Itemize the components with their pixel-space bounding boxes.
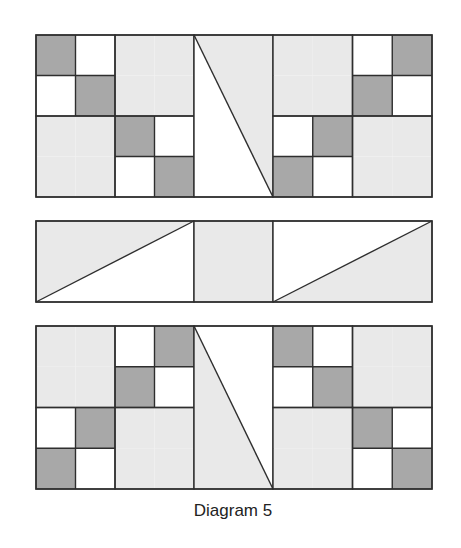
plain-square [194,221,273,302]
patch-cell-light [392,367,432,408]
patch-cell-light [36,116,76,157]
patch-cell-light [76,157,116,198]
patch-cell-white [76,35,116,76]
patch-cell-dark [115,367,155,408]
patch-cell-white [115,157,155,198]
patch-cell-white [36,408,76,449]
patch-cell-dark [36,448,76,489]
patch-cell-dark [76,408,116,449]
patch-cell-light [155,408,195,449]
patch-cell-white [273,367,313,408]
patch-cell-light [115,35,155,76]
patch-cell-white [155,367,195,408]
patch-cell-light [115,448,155,489]
patch-cell-white [313,157,353,198]
patch-cell-light [353,367,393,408]
patch-cell-light [36,367,76,408]
quilt-diagram [0,0,461,548]
patch-cell-light [36,326,76,367]
patch-cell-light [353,326,393,367]
patch-cell-light [313,408,353,449]
patch-cell-light [313,448,353,489]
patch-cell-light [115,76,155,117]
patch-cell-light [273,408,313,449]
patch-cell-light [353,157,393,198]
patch-cell-light [273,35,313,76]
patch-cell-dark [273,157,313,198]
patch-cell-white [115,326,155,367]
patch-cell-white [392,408,432,449]
patch-cell-light [76,367,116,408]
patch-cell-white [392,76,432,117]
patch-cell-dark [155,157,195,198]
patch-cell-white [353,35,393,76]
patch-cell-dark [76,76,116,117]
patch-cell-dark [313,116,353,157]
patch-cell-light [392,326,432,367]
patch-cell-dark [155,326,195,367]
diagram-caption: Diagram 5 [0,501,461,521]
patch-cell-dark [36,35,76,76]
patch-cell-light [155,448,195,489]
patch-cell-light [313,76,353,117]
patch-cell-white [155,116,195,157]
patch-cell-light [273,76,313,117]
patch-cell-light [392,116,432,157]
patch-cell-dark [392,35,432,76]
patch-cell-light [313,35,353,76]
patch-cell-light [76,326,116,367]
patch-cell-light [392,157,432,198]
patch-cell-dark [273,326,313,367]
patch-cell-white [273,116,313,157]
patch-cell-light [155,35,195,76]
patch-cell-light [155,76,195,117]
patch-cell-light [273,448,313,489]
patch-cell-dark [115,116,155,157]
patch-cell-dark [353,408,393,449]
patch-cell-light [115,408,155,449]
patch-cell-dark [353,76,393,117]
patch-cell-dark [392,448,432,489]
patch-cell-light [76,116,116,157]
patch-cell-light [353,116,393,157]
patch-cell-white [76,448,116,489]
patch-cell-white [353,448,393,489]
patch-cell-white [313,326,353,367]
patch-cell-white [36,76,76,117]
patch-cell-light [36,157,76,198]
patch-cell-dark [313,367,353,408]
